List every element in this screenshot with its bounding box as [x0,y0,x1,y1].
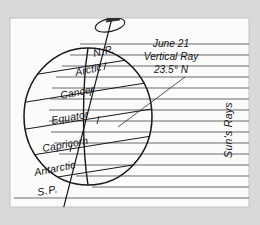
annotation-latitude: 23.5° N [153,64,189,75]
solstice-diagram-figure: N.P. Arctic Cancer Equator Capricorn Ant… [0,0,260,225]
diagram-canvas: N.P. Arctic Cancer Equator Capricorn Ant… [0,0,260,225]
label-suns-rays: Sun's Rays [222,102,234,158]
annotation-vertical-ray: Vertical Ray [144,51,199,62]
annotation-date: June 21 [152,38,189,49]
